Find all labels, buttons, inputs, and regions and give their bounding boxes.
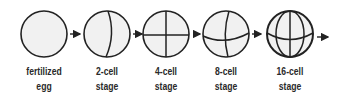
stage-label-line1: 2-cell: [82, 64, 131, 79]
two-cell-icon: [84, 11, 130, 57]
stage-label: 4-cellstage: [141, 64, 190, 94]
fertilized-egg-icon: [21, 11, 67, 57]
stage-label-line1: 4-cell: [141, 64, 190, 79]
sixteen-cell-icon: [267, 11, 313, 57]
stage-label-line1: fertilized: [19, 64, 68, 79]
stage-label-line2: egg: [19, 79, 68, 94]
stage-label-line1: 8-cell: [201, 64, 250, 79]
stage-label: 8-cellstage: [201, 64, 250, 94]
stage-label-line1: 16-cell: [265, 64, 314, 79]
stage-label-line2: stage: [82, 79, 131, 94]
stage-label-line2: stage: [141, 79, 190, 94]
stage-label: fertilizedegg: [19, 64, 68, 94]
eight-cell-icon: [203, 11, 249, 57]
stage-label: 16-cellstage: [265, 64, 314, 94]
four-cell-icon: [143, 11, 189, 57]
stage-label-line2: stage: [265, 79, 314, 94]
stage-label-line2: stage: [201, 79, 250, 94]
stage-label: 2-cellstage: [82, 64, 131, 94]
